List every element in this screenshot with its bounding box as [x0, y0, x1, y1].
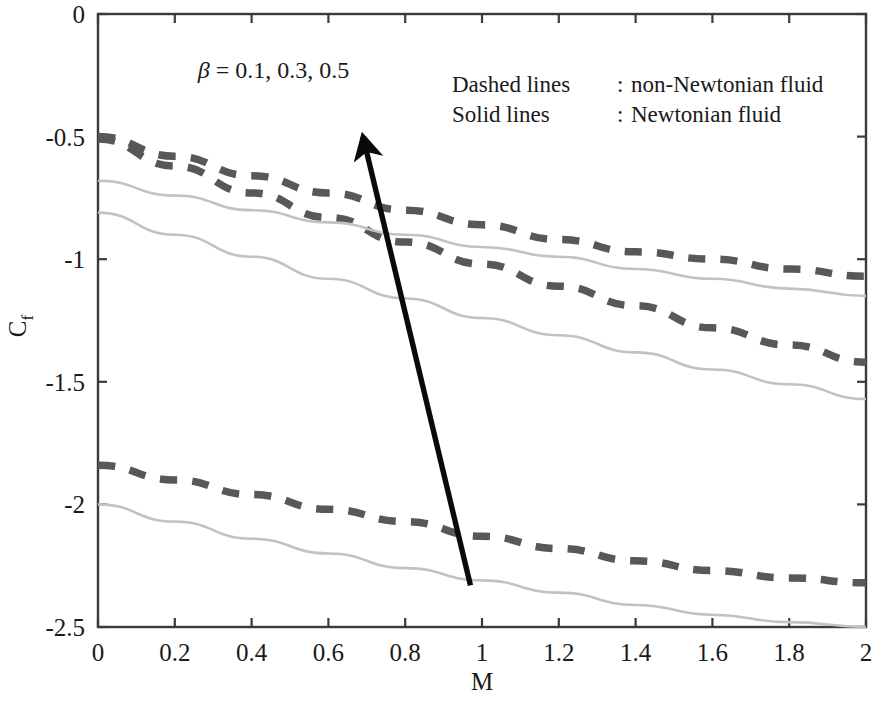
x-tick-label: 0.6	[313, 639, 344, 666]
beta-value: = 0.1, 0.3, 0.5	[210, 57, 350, 83]
y-tick-label: -2	[64, 491, 85, 518]
y-tick-label: -1	[64, 246, 85, 273]
y-tick-label: 0	[73, 1, 86, 28]
figure-container: 00.20.40.60.811.21.41.61.82 0-0.5-1-1.5-…	[0, 0, 892, 703]
legend-solid-label: Solid lines	[452, 102, 550, 127]
legend-dashed-value: non-Newtonian fluid	[631, 72, 824, 97]
legend-dashed-label: Dashed lines	[452, 72, 570, 97]
x-tick-label: 0.2	[159, 639, 190, 666]
beta-symbol: β	[197, 57, 210, 83]
x-axis-title: M	[471, 668, 493, 695]
x-tick-label: 0	[92, 639, 105, 666]
x-tick-label: 1.6	[697, 639, 728, 666]
y-tick-label: -2.5	[45, 614, 85, 641]
y-axis-title-c: C	[4, 320, 31, 337]
y-tick-label: -0.5	[45, 124, 85, 151]
x-tick-label: 0.4	[236, 639, 268, 666]
legend-dashed-sep: :	[617, 72, 623, 97]
x-tick-label: 2	[860, 639, 873, 666]
y-tick-label: -1.5	[45, 369, 85, 396]
y-axis-title-subscript: f	[18, 314, 37, 320]
chart-svg: 00.20.40.60.811.21.41.61.82 0-0.5-1-1.5-…	[0, 0, 892, 703]
y-axis-title: Cf	[4, 314, 37, 337]
x-tick-label: 1.4	[620, 639, 652, 666]
x-tick-label: 0.8	[390, 639, 421, 666]
legend-solid-sep: :	[617, 102, 623, 127]
legend-solid-value: Newtonian fluid	[631, 102, 782, 127]
x-tick-label: 1.8	[774, 639, 805, 666]
legend-entry-dashed: Dashed lines : non-Newtonian fluid	[452, 72, 824, 97]
y-axis-title-main: Cf	[4, 314, 37, 337]
y-axis-tick-labels: 0-0.5-1-1.5-2-2.5	[45, 1, 85, 641]
legend-entry-solid: Solid lines : Newtonian fluid	[452, 102, 782, 127]
x-axis-tick-labels: 00.20.40.60.811.21.41.61.82	[92, 639, 873, 666]
x-tick-label: 1.2	[543, 639, 574, 666]
x-tick-label: 1	[476, 639, 489, 666]
beta-annotation: β = 0.1, 0.3, 0.5	[197, 57, 350, 83]
